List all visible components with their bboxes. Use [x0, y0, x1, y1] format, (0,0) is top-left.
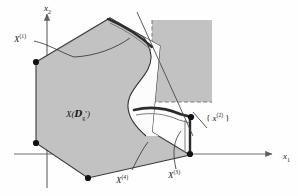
label-main-set-open: X( [66, 109, 75, 119]
label-x4-vertex: X(4) [116, 175, 128, 185]
diagram-svg [0, 0, 298, 196]
leader-line-x2 [193, 112, 207, 128]
label-x2-set: { x(2) } [206, 113, 230, 123]
x2-dot [188, 114, 194, 120]
label-x2-close-brace: } [223, 113, 230, 123]
bottom-dot [85, 175, 91, 181]
box-region [152, 20, 212, 102]
label-x3-superscript: (3) [174, 169, 181, 175]
x1-vertex-dot [33, 59, 39, 65]
label-x3-vertex: X(3) [168, 170, 180, 180]
label-x2-open-brace: { [206, 113, 213, 123]
x3-dot [187, 151, 193, 157]
x-axis-label: x1 [283, 152, 290, 164]
label-x1-superscript: (1) [20, 33, 27, 39]
y-axis-label-subscript: 2 [48, 9, 51, 15]
label-x1-vertex: X(1) [14, 34, 26, 44]
box-region-fill [152, 20, 212, 102]
y-axis-label: x2 [44, 4, 51, 16]
label-main-set: X(Dg') [66, 110, 90, 122]
left-lower-dot [33, 140, 39, 146]
label-main-set-close: ) [87, 109, 90, 119]
figure-canvas: x2 x1 X(1) { x(2) } X(3) X(4) X(Dg') [0, 0, 298, 196]
label-x4-superscript: (4) [122, 174, 129, 180]
x-axis-label-subscript: 1 [287, 157, 290, 163]
